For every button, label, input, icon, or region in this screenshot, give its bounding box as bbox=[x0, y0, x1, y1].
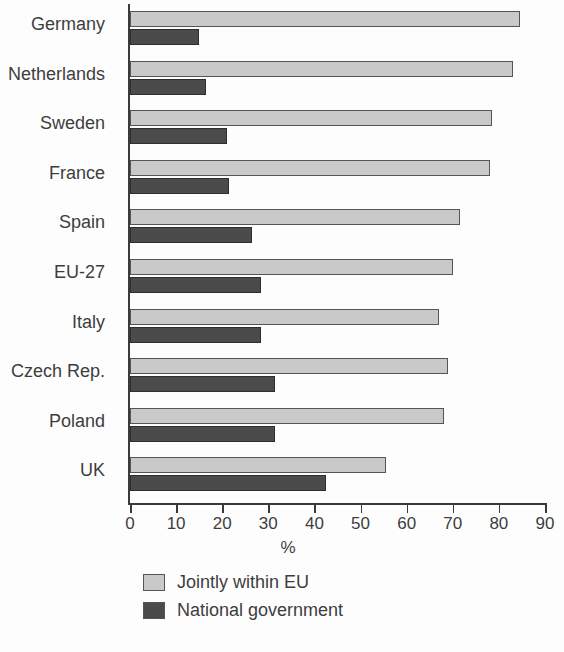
legend-label: Jointly within EU bbox=[177, 572, 309, 593]
category-label: Poland bbox=[0, 411, 105, 432]
legend-item: National government bbox=[143, 596, 343, 624]
chart-row: Italy bbox=[130, 304, 545, 354]
legend-swatch bbox=[143, 574, 165, 591]
x-tick bbox=[453, 505, 455, 513]
x-tick bbox=[407, 505, 409, 513]
bar-jointly-within-eu bbox=[130, 209, 460, 225]
bar-chart: GermanyNetherlandsSwedenFranceSpainEU-27… bbox=[0, 0, 564, 652]
bar-national-government bbox=[130, 475, 326, 491]
chart-row: Czech Rep. bbox=[130, 353, 545, 403]
x-tick-label: 90 bbox=[536, 514, 555, 534]
category-label: Italy bbox=[0, 312, 105, 333]
bar-national-government bbox=[130, 426, 275, 442]
x-tick-label: 30 bbox=[259, 514, 278, 534]
category-label: France bbox=[0, 163, 105, 184]
bar-national-government bbox=[130, 277, 261, 293]
chart-row: France bbox=[130, 155, 545, 205]
x-tick-label: 50 bbox=[351, 514, 370, 534]
bar-jointly-within-eu bbox=[130, 11, 520, 27]
plot-area: GermanyNetherlandsSwedenFranceSpainEU-27… bbox=[130, 6, 545, 502]
bar-national-government bbox=[130, 376, 275, 392]
bar-national-government bbox=[130, 29, 199, 45]
x-axis-line bbox=[128, 503, 547, 505]
legend-swatch bbox=[143, 602, 165, 619]
chart-legend: Jointly within EUNational government bbox=[143, 568, 343, 624]
legend-item: Jointly within EU bbox=[143, 568, 343, 596]
bar-jointly-within-eu bbox=[130, 61, 513, 77]
chart-row: UK bbox=[130, 452, 545, 502]
bar-jointly-within-eu bbox=[130, 408, 444, 424]
x-tick bbox=[176, 505, 178, 513]
chart-row: Poland bbox=[130, 403, 545, 453]
chart-row: Spain bbox=[130, 204, 545, 254]
chart-row: EU-27 bbox=[130, 254, 545, 304]
bar-jointly-within-eu bbox=[130, 457, 386, 473]
x-tick bbox=[545, 505, 547, 513]
category-label: Spain bbox=[0, 212, 105, 233]
bar-national-government bbox=[130, 227, 252, 243]
category-label: Sweden bbox=[0, 113, 105, 134]
x-tick bbox=[314, 505, 316, 513]
x-axis-title: % bbox=[0, 538, 564, 558]
category-label: Czech Rep. bbox=[0, 361, 105, 382]
bar-national-government bbox=[130, 79, 206, 95]
chart-row: Netherlands bbox=[130, 56, 545, 106]
x-tick-label: 70 bbox=[443, 514, 462, 534]
category-label: EU-27 bbox=[0, 262, 105, 283]
x-tick bbox=[499, 505, 501, 513]
x-tick bbox=[130, 505, 132, 513]
category-label: Netherlands bbox=[0, 64, 105, 85]
chart-row: Germany bbox=[130, 6, 545, 56]
legend-label: National government bbox=[177, 600, 343, 621]
x-tick bbox=[222, 505, 224, 513]
bar-jointly-within-eu bbox=[130, 358, 448, 374]
x-tick-label: 20 bbox=[213, 514, 232, 534]
x-tick-label: 40 bbox=[305, 514, 324, 534]
category-label: UK bbox=[0, 460, 105, 481]
bar-jointly-within-eu bbox=[130, 160, 490, 176]
bar-jointly-within-eu bbox=[130, 259, 453, 275]
bar-national-government bbox=[130, 327, 261, 343]
x-tick-label: 60 bbox=[397, 514, 416, 534]
bar-jointly-within-eu bbox=[130, 309, 439, 325]
x-tick-label: 80 bbox=[489, 514, 508, 534]
bar-national-government bbox=[130, 178, 229, 194]
category-label: Germany bbox=[0, 14, 105, 35]
chart-row: Sweden bbox=[130, 105, 545, 155]
bar-national-government bbox=[130, 128, 227, 144]
x-tick-label: 10 bbox=[167, 514, 186, 534]
x-tick bbox=[361, 505, 363, 513]
bar-jointly-within-eu bbox=[130, 110, 492, 126]
x-tick-label: 0 bbox=[125, 514, 134, 534]
x-tick bbox=[268, 505, 270, 513]
